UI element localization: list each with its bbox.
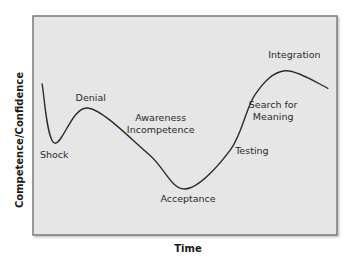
stage-label-search-for-meaning: Search forMeaning: [249, 99, 298, 122]
stage-label-awareness-incompetence: AwarenessIncompetence: [127, 112, 195, 135]
x-axis-label: Time: [174, 243, 202, 254]
stage-label-acceptance: Acceptance: [160, 193, 215, 204]
stage-label-denial: Denial: [76, 92, 106, 103]
stage-label-testing: Testing: [234, 145, 268, 156]
change-curve-chart: ShockDenialAwarenessIncompetenceAcceptan…: [0, 0, 356, 260]
stage-label-shock: Shock: [40, 149, 69, 160]
y-axis-label: Competence/Confidence: [14, 72, 25, 208]
stage-label-integration: Integration: [268, 49, 320, 60]
